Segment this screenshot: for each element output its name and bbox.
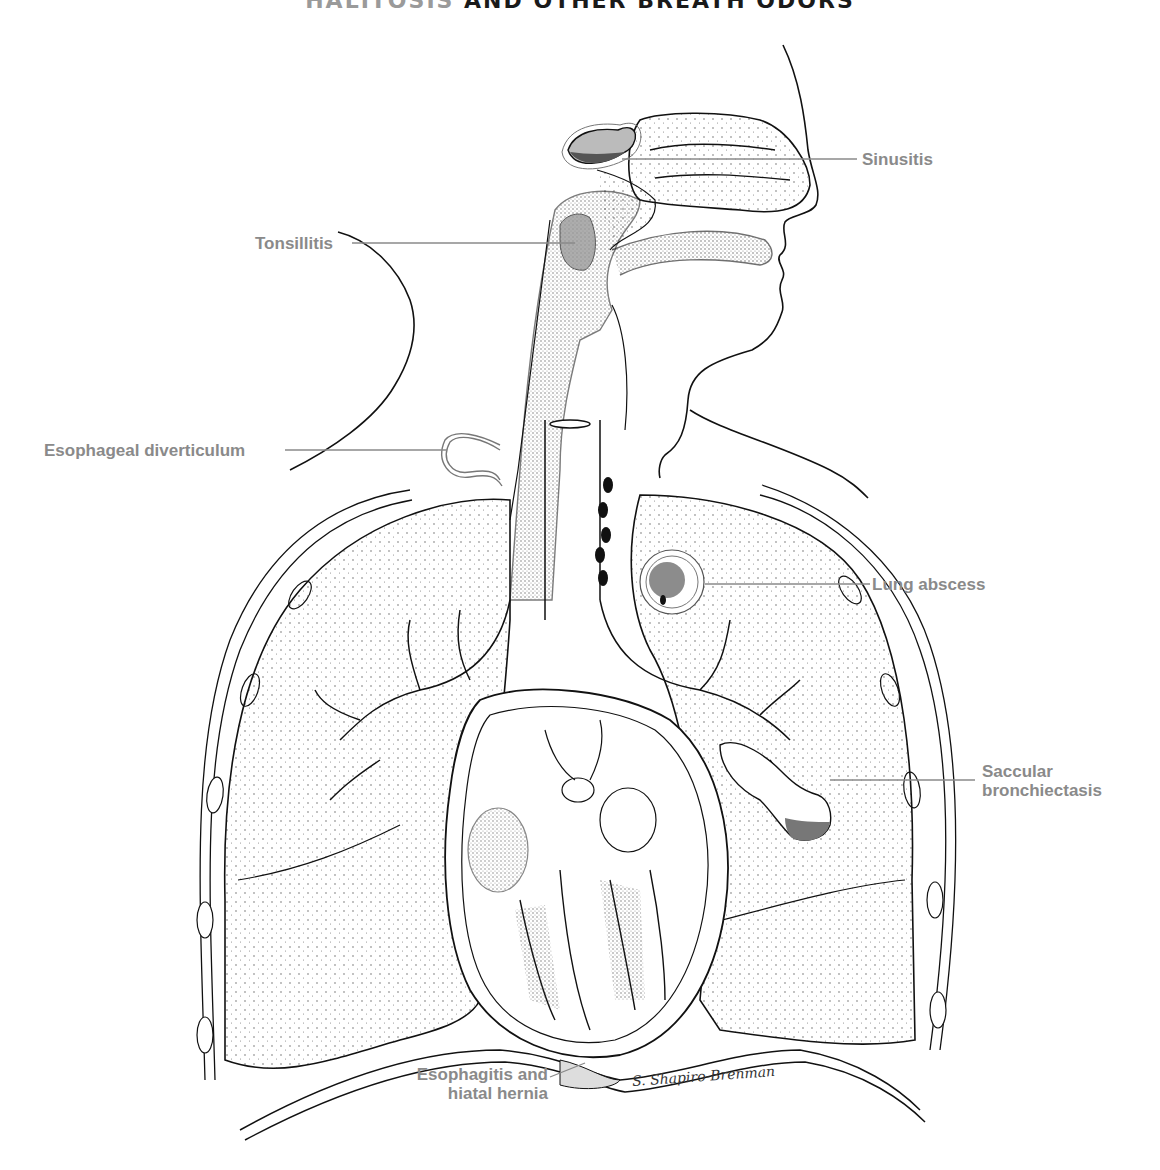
label-saccular-bronchiectasis: Saccular bronchiectasis	[982, 762, 1102, 800]
label-line-1: Saccular	[982, 762, 1102, 781]
label-lung-abscess: Lung abscess	[872, 575, 985, 594]
label-tonsillitis: Tonsillitis	[255, 234, 333, 253]
label-line-1: Esophagitis and	[396, 1065, 548, 1084]
label-esophagitis-hiatal-hernia: Esophagitis and hiatal hernia	[396, 1065, 548, 1103]
esophageal-diverticulum	[442, 434, 502, 486]
label-sinusitis: Sinusitis	[862, 150, 933, 169]
lymph-nodes	[595, 477, 613, 586]
label-esophageal-diverticulum: Esophageal diverticulum	[44, 441, 245, 460]
lung-abscess	[640, 550, 704, 614]
label-line-2: hiatal hernia	[396, 1084, 548, 1103]
label-line-2: bronchiectasis	[982, 781, 1102, 800]
heart	[445, 690, 728, 1058]
anatomy-illustration	[0, 0, 1160, 1170]
